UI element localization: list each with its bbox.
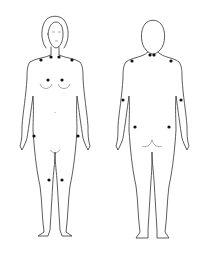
point-trapezius-left bbox=[130, 59, 133, 62]
back-figure bbox=[116, 20, 189, 238]
point-occiput-right bbox=[152, 53, 155, 56]
point-neck-left-lateral bbox=[39, 58, 42, 61]
point-elbow-right bbox=[179, 98, 182, 101]
point-neck-right-medial bbox=[57, 55, 60, 58]
front-points bbox=[32, 55, 79, 181]
point-trapezius-right bbox=[169, 59, 172, 62]
point-chest-left bbox=[46, 78, 49, 81]
point-knee-right bbox=[60, 178, 63, 181]
front-figure bbox=[20, 16, 90, 236]
point-neck-right-lateral bbox=[70, 58, 73, 61]
point-elbow-left bbox=[121, 98, 124, 101]
point-gluteal-left bbox=[133, 125, 136, 128]
point-hip-left bbox=[32, 134, 35, 137]
point-chest-right bbox=[60, 78, 63, 81]
point-knee-left bbox=[47, 178, 50, 181]
point-neck-left-medial bbox=[49, 55, 52, 58]
back-points bbox=[121, 53, 182, 128]
body-diagram bbox=[0, 0, 202, 262]
point-gluteal-right bbox=[167, 125, 170, 128]
point-hip-right bbox=[76, 134, 79, 137]
point-occiput-left bbox=[148, 53, 151, 56]
